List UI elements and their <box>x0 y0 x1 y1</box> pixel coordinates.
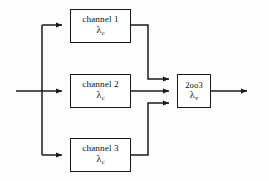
block-voter-2oo3: 2oo3 λv <box>177 74 211 108</box>
block-channel-2: channel 2 λc <box>70 74 131 108</box>
block-channel-2-rate: λc <box>96 90 104 102</box>
block-voter-rate: λv <box>190 90 199 102</box>
diagram-connections-layer <box>0 0 269 181</box>
block-channel-3-rate: λc <box>96 154 104 166</box>
lambda-symbol: λ <box>190 89 195 100</box>
lambda-subscript: c <box>101 94 104 101</box>
connection-channel-1-to-voter <box>131 25 169 79</box>
block-channel-3: channel 3 λc <box>70 138 131 172</box>
lambda-subscript: c <box>101 158 104 165</box>
connection-channel-3-to-voter <box>131 103 169 155</box>
reliability-block-diagram: channel 1 λc channel 2 λc channel 3 λc 2… <box>0 0 269 181</box>
block-channel-1-rate: λc <box>96 25 104 37</box>
lambda-subscript: c <box>101 29 104 36</box>
lambda-subscript: v <box>195 94 199 101</box>
block-channel-1: channel 1 λc <box>70 9 131 43</box>
